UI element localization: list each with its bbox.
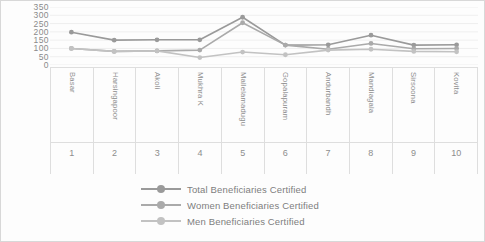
category-cell: Akoli3 [135,68,178,174]
category-label: Andurbandh [324,72,333,115]
legend-label: Men Beneficiaries Certified [187,216,305,227]
category-cell: Sirsoona9 [392,68,435,174]
category-label: Mukhra K [195,72,204,106]
legend-marker-icon [141,184,181,194]
category-cell: Gopalapuram6 [264,68,307,174]
data-point [69,46,74,51]
category-cell: Mukhra K4 [178,68,221,174]
category-number: 8 [350,142,392,158]
category-number: 10 [435,142,477,158]
chart-container: 350300250200150100500 Basar1Harsingapoor… [0,0,485,242]
category-number: 7 [307,142,349,158]
legend-marker-icon [141,216,181,226]
data-point [369,33,374,38]
series-1 [69,20,459,53]
y-axis-tick: 0 [44,61,49,69]
data-point [112,38,117,43]
category-label: Basar [67,72,76,93]
data-point [155,37,160,42]
category-cell: Andurbandh7 [306,68,349,174]
series-line [71,17,456,45]
series-0 [69,15,459,48]
data-point [454,49,459,54]
category-number: 5 [222,142,264,158]
category-label: Kovita [452,72,461,94]
data-point [197,37,202,42]
data-point [197,55,202,60]
data-point [240,50,245,55]
data-point [240,15,245,20]
line-chart-svg [50,7,478,65]
data-point [283,43,288,48]
data-point [369,41,374,46]
category-number: 2 [94,142,136,158]
category-cell: Basar1 [50,68,93,174]
category-label: Mallelamadugu [238,72,247,126]
data-point [326,48,331,53]
plot-area [50,7,478,65]
category-label: Sirsoona [409,72,418,104]
data-point [155,49,160,54]
category-label: Gopalapuram [281,72,290,120]
series-line [71,48,456,57]
category-cell: Mallelamadugu5 [221,68,264,174]
category-number: 1 [51,142,93,158]
legend-marker-icon [141,200,181,210]
series-line [71,23,456,52]
series-layer [69,15,459,60]
data-point [283,52,288,57]
data-point [326,42,331,47]
legend-label: Women Beneficiaries Certified [187,200,319,211]
category-number: 4 [179,142,221,158]
data-point [197,48,202,53]
data-point [369,47,374,52]
legend-item[interactable]: Women Beneficiaries Certified [141,197,441,213]
gridlines [50,7,478,65]
category-label: Mandiagala [366,72,375,113]
legend-label: Total Beneficiaries Certified [187,184,306,195]
legend-item[interactable]: Men Beneficiaries Certified [141,213,441,229]
category-number: 9 [393,142,435,158]
y-axis: 350300250200150100500 [7,5,49,67]
data-point [112,49,117,54]
data-point [69,30,74,35]
category-cell: Harsingapoor2 [93,68,136,174]
chart-legend: Total Beneficiaries CertifiedWomen Benef… [141,181,441,229]
category-label: Harsingapoor [110,72,119,120]
data-point [240,20,245,25]
category-axis: Basar1Harsingapoor2Akoli3Mukhra K4Mallel… [50,67,478,174]
data-point [411,49,416,54]
category-label: Akoli [153,72,162,89]
category-cell: Kovita10 [434,68,478,174]
legend-item[interactable]: Total Beneficiaries Certified [141,181,441,197]
category-cell: Mandiagala8 [349,68,392,174]
category-number: 6 [265,142,307,158]
category-number: 3 [136,142,178,158]
